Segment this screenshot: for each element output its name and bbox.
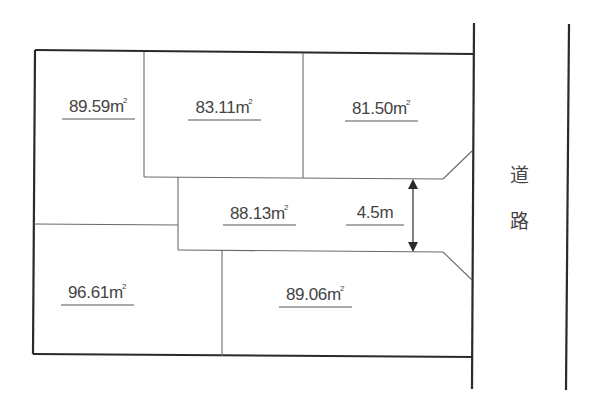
lot-area-label: 89.59m2 xyxy=(69,96,127,117)
lot-area-label: 89.06m2 xyxy=(286,284,344,305)
lot-area-label: 96.61m2 xyxy=(68,282,126,303)
width-dimension-arrow xyxy=(408,179,418,252)
site-plan-diagram xyxy=(0,0,589,416)
lot-area-label: 88.13m2 xyxy=(230,203,288,224)
road-width-label: 4.5m xyxy=(357,203,394,223)
lot-area-label: 83.11m2 xyxy=(196,97,253,118)
lot-area-label: 81.50m2 xyxy=(352,98,410,119)
road-label-char-1: 道 xyxy=(510,160,529,187)
road-label-char-2: 路 xyxy=(510,206,529,233)
